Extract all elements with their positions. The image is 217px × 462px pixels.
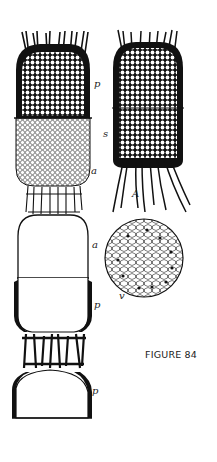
reticulated-cell-s [16,118,90,186]
label-p-bottom: p [92,386,98,396]
label-a-1: a [91,166,97,176]
label-v: v [119,291,125,301]
left-specimen [12,31,92,418]
clear-cell-a [18,215,88,278]
label-a-specimen: A [132,189,139,199]
label-a-2: a [92,240,98,250]
label-s: s [103,129,108,139]
label-p-top: p [94,79,100,89]
junction-1 [26,186,82,214]
cell-p-mid [18,278,88,332]
junction-2 [22,334,86,368]
figure-caption: FIGURE 84 [145,349,197,360]
cell-p-bottom [16,370,88,418]
right-specimen-a [112,30,190,212]
cross-section-v [105,219,183,297]
figure-84-illustration [0,0,217,462]
label-p-mid: p [94,300,100,310]
